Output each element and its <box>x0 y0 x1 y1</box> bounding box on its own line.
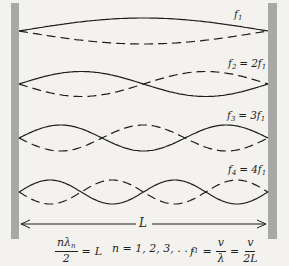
wave-solid-n4 <box>19 180 268 204</box>
wave-dashed-n1 <box>19 31 268 44</box>
n-values-text: n = 1, 2, 3, . . . <box>112 243 195 254</box>
wave-solid-n1 <box>19 18 268 31</box>
wave-dashed-n2 <box>19 72 268 97</box>
relation-fraction: nλn 2 <box>55 237 78 266</box>
length-label: L <box>139 216 147 230</box>
harmonic-4-label: f4=4f1 <box>228 164 266 177</box>
v-over-lambda-fraction: v λ <box>216 237 226 265</box>
frequency-formula: f1 = v λ = v 2L <box>190 237 258 265</box>
harmonic-2-label: f2=2f1 <box>228 58 266 71</box>
harmonic-1-label: f1 <box>234 9 248 22</box>
relation-formula: nλn 2 = L <box>55 237 102 266</box>
harmonic-3-label: f3=3f1 <box>227 110 265 123</box>
wave-solid-n3 <box>19 125 268 151</box>
wave-dashed-n3 <box>19 125 268 151</box>
standing-waves-figure: f1 f2=2f1 f3=3f1 f4=4f1 L nλn 2 = L n = … <box>0 0 289 266</box>
v-over-2l-fraction: v 2L <box>243 237 257 265</box>
